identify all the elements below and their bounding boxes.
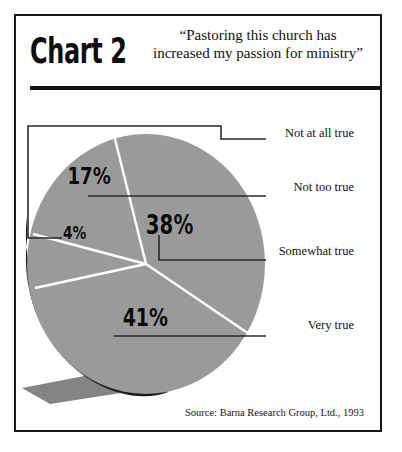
legend-label-not-at-all-true: Not at all true (206, 126, 354, 141)
legend-label-not-too-true: Not too true (206, 180, 354, 195)
chart-page: Chart 2 “Pastoring this church has incre… (0, 0, 402, 452)
slice-value-somewhat-true: 38% (146, 210, 193, 239)
chart-subtitle: “Pastoring this church has increased my … (144, 26, 372, 63)
slice-value-very-true: 41% (123, 304, 168, 332)
legend-label-very-true: Very true (206, 318, 354, 333)
page-title: Chart 2 (30, 30, 126, 71)
title-divider (30, 86, 382, 90)
chart-frame: Chart 2 “Pastoring this church has incre… (14, 14, 382, 432)
chart-subtitle-line-1: “Pastoring this church has (144, 26, 372, 44)
pie-chart-plot-area: 17% 4% 38% 41% Not at all true Not too t… (16, 92, 384, 432)
chart-header: Chart 2 “Pastoring this church has incre… (16, 16, 380, 92)
source-attribution: Source: Barna Research Group, Ltd., 1993 (185, 407, 364, 418)
pie-chart-graphic (16, 92, 384, 432)
chart-subtitle-line-2: increased my passion for ministry” (144, 44, 372, 62)
legend-label-somewhat-true: Somewhat true (206, 244, 354, 259)
slice-value-not-at-all-true: 4% (63, 222, 86, 243)
slice-value-not-too-true: 17% (68, 163, 111, 190)
